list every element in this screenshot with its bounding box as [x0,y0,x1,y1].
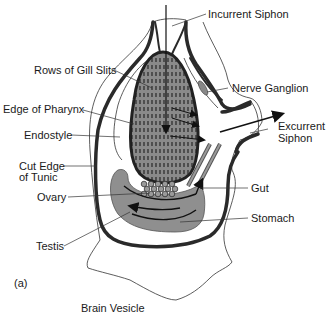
ovary-granule [169,181,175,187]
ovary [141,181,178,197]
excurrent-flow-arrow [220,114,282,132]
ovary-granule [169,191,175,197]
label-excurrent-line2: Siphon [278,132,312,144]
ovary-granule [155,181,161,187]
incurrent-siphon-wall-right [172,22,186,54]
ovary-granule [162,181,168,187]
label-stomach: Stomach [251,212,294,224]
caption-brain-vesicle: Brain Vesicle [81,302,145,314]
incurrent-siphon-rim [153,19,186,22]
ovary-granule [144,186,150,192]
ovary-granule [155,191,161,197]
label-endostyle: Endostyle [24,129,72,141]
ovary-granule [162,191,168,197]
ovary-granule [141,181,147,187]
ovary-granule [151,186,157,192]
label-excurrent-line1: Excurrent [278,120,325,132]
label-testis: Testis [36,240,65,252]
label-nerve-ganglion: Nerve Ganglion [232,82,308,94]
incurrent-siphon-wall-left [155,22,160,52]
tunicate-anatomy-diagram: Incurrent Siphon Rows of Gill Slits Nerv… [0,0,327,315]
ovary-granule [165,186,171,192]
ovary-granule [172,186,178,192]
ovary-granule [148,181,154,187]
label-ovary: Ovary [37,191,67,203]
ovary-granule [158,186,164,192]
panel-label: (a) [14,277,27,289]
leader-incurrent-siphon [172,14,206,26]
label-incurrent-siphon: Incurrent Siphon [208,8,289,20]
leader-excurrent-siphon [250,129,268,133]
label-gut: Gut [251,182,269,194]
label-edge-of-pharynx: Edge of Pharynx [3,103,85,115]
label-rows-of-gill-slits: Rows of Gill Slits [34,64,117,76]
ovary-granule [148,191,154,197]
excurrent-siphon-lower [236,134,258,152]
label-cut-edge-line2: of Tunic [19,171,58,183]
